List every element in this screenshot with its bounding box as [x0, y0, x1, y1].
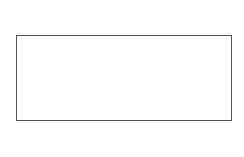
diagram-canvas	[0, 0, 244, 157]
plate	[17, 36, 232, 121]
